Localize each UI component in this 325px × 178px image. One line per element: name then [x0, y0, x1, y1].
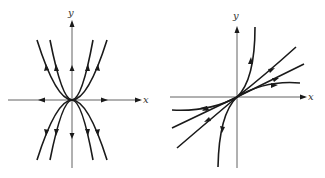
- left-curve-arrow-icon: [54, 129, 59, 136]
- right-y-axis-arrowhead-icon: [235, 26, 240, 33]
- right-curve-arrow-icon: [204, 117, 211, 122]
- left-y-axis-arrowhead-icon: [70, 20, 75, 27]
- left-trajectory-lower-inner-right: [72, 100, 93, 160]
- left-trajectory-upper-inner-left: [50, 40, 72, 100]
- left-x-axis-flow-arrow-icon: [101, 98, 108, 103]
- left-curve-arrow-icon: [44, 64, 49, 71]
- left-curve-arrow-icon: [54, 64, 59, 71]
- left-y-axis-label: y: [67, 7, 74, 18]
- right-trajectory-flat: [172, 83, 300, 111]
- left-phase-portrait: y x: [8, 7, 149, 168]
- right-x-axis-arrowhead-icon: [300, 95, 307, 100]
- right-x-axis-label: x: [308, 91, 314, 102]
- right-curve-arrow-icon: [272, 78, 279, 82]
- left-trajectory-upper-inner-right: [72, 40, 93, 100]
- right-y-axis-label: y: [232, 10, 239, 21]
- left-curve-arrow-icon: [95, 129, 100, 136]
- left-curve-arrow-icon: [95, 64, 100, 71]
- right-curve-arrow-icon: [268, 68, 275, 73]
- left-x-axis-flow-arrow-icon: [38, 98, 45, 103]
- left-y-axis-flow-arrow-icon: [70, 133, 75, 139]
- left-trajectory-lower-inner-left: [50, 100, 72, 160]
- left-curve-arrow-icon: [44, 129, 49, 136]
- phase-portrait-figure: y x y x: [0, 0, 325, 178]
- left-x-axis-label: x: [143, 94, 149, 105]
- left-x-axis-arrowhead-icon: [135, 98, 142, 103]
- right-phase-portrait: y x: [170, 10, 314, 168]
- left-y-axis-flow-arrow-icon: [70, 65, 75, 71]
